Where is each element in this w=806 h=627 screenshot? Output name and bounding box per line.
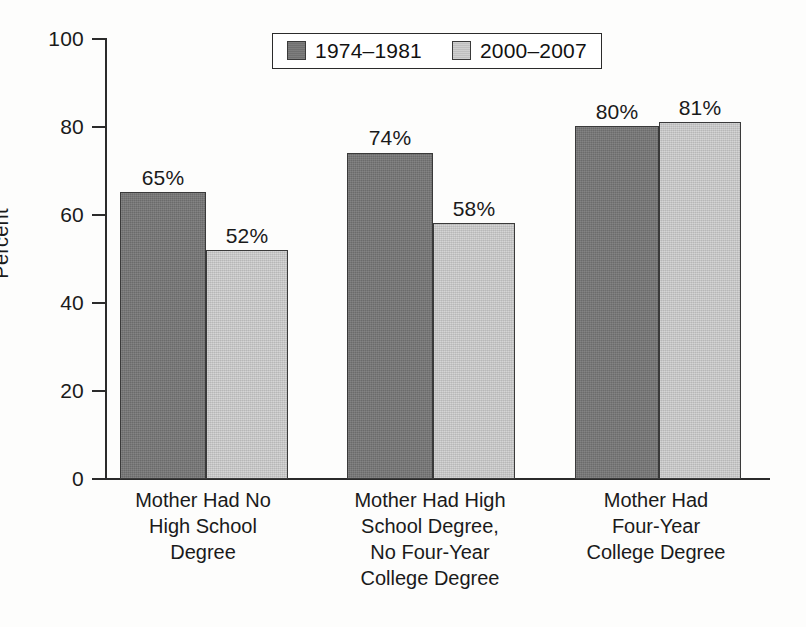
- category-label-1: Mother Had No High School Degree: [92, 487, 314, 565]
- category-label-2-line-4: College Degree: [322, 565, 538, 591]
- bar-g3-s2: [659, 122, 741, 479]
- category-label-2: Mother Had High School Degree, No Four-Y…: [322, 487, 538, 591]
- category-label-2-line-1: Mother Had High: [322, 487, 538, 513]
- category-label-1-line-1: Mother Had No: [92, 487, 314, 513]
- legend-label-2000-2007: 2000–2007: [480, 40, 587, 61]
- category-label-1-line-2: High School: [92, 513, 314, 539]
- y-tick-label-40: 40: [60, 292, 84, 313]
- legend-item-2000-2007: 2000–2007: [452, 40, 587, 61]
- category-label-3-line-1: Mother Had: [552, 487, 760, 513]
- bar-value-g2-s2: 58%: [433, 198, 515, 219]
- y-tick-100: [92, 38, 106, 40]
- y-tick-label-60: 60: [60, 204, 84, 225]
- bar-g2-s2: [433, 223, 515, 479]
- y-tick-80: [92, 126, 106, 128]
- bar-g2-s1: [347, 153, 433, 479]
- category-label-3-line-3: College Degree: [552, 539, 760, 565]
- y-axis-title: Percent: [0, 208, 13, 278]
- bar-chart: 100 80 60 40 20 0 Percent 65% 52% 74% 58…: [0, 0, 806, 627]
- y-tick-40: [92, 302, 106, 304]
- y-tick-label-20: 20: [60, 380, 84, 401]
- bar-value-g2-s1: 74%: [347, 127, 433, 148]
- dark-gray-swatch-icon: [287, 41, 306, 60]
- y-tick-20: [92, 390, 106, 392]
- y-tick-label-80: 80: [60, 116, 84, 137]
- bar-value-g1-s2: 52%: [206, 225, 288, 246]
- bar-g1-s2: [206, 250, 288, 479]
- bar-g3-s1: [575, 126, 659, 479]
- category-label-2-line-3: No Four-Year: [322, 539, 538, 565]
- category-label-3: Mother Had Four-Year College Degree: [552, 487, 760, 565]
- category-label-2-line-2: School Degree,: [322, 513, 538, 539]
- category-label-1-line-3: Degree: [92, 539, 314, 565]
- y-tick-label-100: 100: [48, 28, 84, 49]
- bar-value-g3-s1: 80%: [575, 101, 659, 122]
- legend-item-1974-1981: 1974–1981: [287, 40, 422, 61]
- bar-value-g1-s1: 65%: [120, 167, 206, 188]
- y-tick-label-0: 0: [72, 468, 84, 489]
- category-label-3-line-2: Four-Year: [552, 513, 760, 539]
- legend-label-1974-1981: 1974–1981: [315, 40, 422, 61]
- light-gray-swatch-icon: [452, 41, 471, 60]
- y-tick-60: [92, 214, 106, 216]
- chart-legend: 1974–1981 2000–2007: [272, 33, 602, 69]
- bar-value-g3-s2: 81%: [659, 97, 741, 118]
- bar-g1-s1: [120, 192, 206, 479]
- y-tick-0: [92, 478, 106, 480]
